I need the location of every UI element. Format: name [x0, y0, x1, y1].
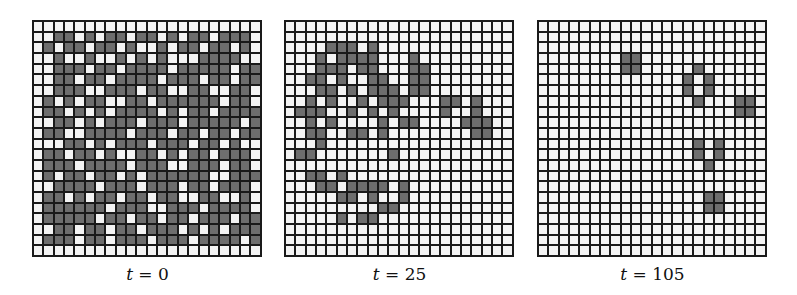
dead-cell — [570, 204, 578, 213]
dead-cell — [106, 75, 114, 84]
alive-cell — [117, 33, 125, 42]
dead-cell — [410, 140, 418, 149]
dead-cell — [570, 225, 578, 234]
dead-cell — [673, 172, 681, 181]
dead-cell — [358, 33, 366, 42]
dead-cell — [715, 246, 723, 255]
dead-cell — [736, 246, 744, 255]
dead-cell — [591, 33, 599, 42]
dead-cell — [296, 129, 304, 138]
alive-cell — [348, 43, 356, 52]
dead-cell — [251, 182, 259, 191]
alive-cell — [65, 97, 73, 106]
dead-cell — [389, 182, 397, 191]
dead-cell — [34, 75, 42, 84]
alive-cell — [231, 161, 239, 170]
dead-cell — [420, 193, 428, 202]
dead-cell — [715, 236, 723, 245]
dead-cell — [611, 97, 619, 106]
alive-cell — [715, 193, 723, 202]
dead-cell — [653, 140, 661, 149]
alive-cell — [400, 182, 408, 191]
dead-cell — [127, 129, 135, 138]
alive-cell — [210, 204, 218, 213]
dead-cell — [503, 86, 511, 95]
dead-cell — [684, 150, 692, 159]
dead-cell — [55, 246, 63, 255]
dead-cell — [251, 33, 259, 42]
alive-cell — [210, 214, 218, 223]
dead-cell — [472, 65, 480, 74]
dead-cell — [117, 43, 125, 52]
alive-cell — [179, 65, 187, 74]
dead-cell — [560, 140, 568, 149]
alive-cell — [179, 75, 187, 84]
dead-cell — [189, 236, 197, 245]
dead-cell — [462, 43, 470, 52]
dead-cell — [472, 161, 480, 170]
alive-cell — [148, 182, 156, 191]
dead-cell — [441, 75, 449, 84]
alive-cell — [65, 118, 73, 127]
alive-cell — [168, 193, 176, 202]
dead-cell — [231, 65, 239, 74]
alive-cell — [220, 75, 228, 84]
dead-cell — [715, 161, 723, 170]
alive-cell — [106, 172, 114, 181]
dead-cell — [307, 65, 315, 74]
dead-cell — [580, 22, 588, 31]
dead-cell — [369, 118, 377, 127]
dead-cell — [286, 75, 294, 84]
alive-cell — [148, 118, 156, 127]
dead-cell — [327, 129, 335, 138]
dead-cell — [580, 225, 588, 234]
dead-cell — [348, 214, 356, 223]
dead-cell — [307, 33, 315, 42]
dead-cell — [34, 225, 42, 234]
dead-cell — [462, 22, 470, 31]
alive-cell — [210, 97, 218, 106]
alive-cell — [472, 108, 480, 117]
dead-cell — [338, 33, 346, 42]
alive-cell — [379, 129, 387, 138]
dead-cell — [379, 236, 387, 245]
dead-cell — [549, 33, 557, 42]
cell-grid — [537, 20, 767, 257]
alive-cell — [317, 182, 325, 191]
dead-cell — [44, 246, 52, 255]
alive-cell — [296, 150, 304, 159]
alive-cell — [127, 182, 135, 191]
alive-cell — [420, 65, 428, 74]
alive-cell — [220, 118, 228, 127]
dead-cell — [400, 172, 408, 181]
alive-cell — [137, 33, 145, 42]
dead-cell — [715, 172, 723, 181]
dead-cell — [539, 140, 547, 149]
dead-cell — [549, 108, 557, 117]
dead-cell — [389, 172, 397, 181]
dead-cell — [483, 33, 491, 42]
dead-cell — [736, 118, 744, 127]
dead-cell — [756, 97, 764, 106]
dead-cell — [601, 150, 609, 159]
dead-cell — [715, 97, 723, 106]
dead-cell — [168, 22, 176, 31]
dead-cell — [286, 161, 294, 170]
dead-cell — [55, 172, 63, 181]
dead-cell — [653, 182, 661, 191]
dead-cell — [663, 204, 671, 213]
dead-cell — [570, 43, 578, 52]
dead-cell — [684, 54, 692, 63]
dead-cell — [622, 43, 630, 52]
alive-cell — [317, 75, 325, 84]
dead-cell — [725, 65, 733, 74]
alive-cell — [179, 140, 187, 149]
alive-cell — [96, 161, 104, 170]
dead-cell — [736, 65, 744, 74]
dead-cell — [715, 214, 723, 223]
alive-cell — [158, 43, 166, 52]
dead-cell — [296, 214, 304, 223]
dead-cell — [570, 161, 578, 170]
dead-cell — [358, 108, 366, 117]
dead-cell — [400, 129, 408, 138]
